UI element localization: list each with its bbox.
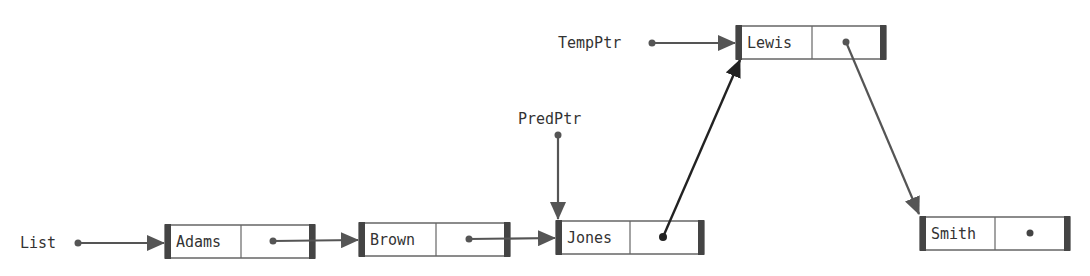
node-smith: Smith (920, 216, 1070, 251)
node-value: Smith (931, 225, 976, 243)
next-arrow (846, 42, 919, 214)
node-brown: Brown (359, 222, 555, 257)
pred-ptr-pointer: PredPtr (518, 110, 581, 219)
list-pointer: List (20, 234, 164, 252)
node-value: Jones (567, 229, 612, 247)
list-label: List (20, 234, 56, 252)
linked-list-diagram: List Adams Brown PredPtr Jones (0, 0, 1090, 276)
node-value: Brown (370, 231, 415, 249)
node-value: Adams (176, 233, 221, 251)
next-arrow (469, 238, 555, 239)
next-arrow (663, 60, 740, 237)
node-value: Lewis (747, 34, 792, 52)
pred-ptr-label: PredPtr (518, 110, 581, 128)
next-arrow (273, 240, 358, 241)
temp-ptr-pointer: TempPtr (558, 34, 735, 52)
node-adams: Adams (165, 224, 358, 259)
node-lewis: Lewis (736, 25, 919, 214)
node-jones: Jones (556, 60, 740, 255)
temp-ptr-label: TempPtr (558, 34, 621, 52)
null-pointer-dot (1027, 230, 1034, 237)
